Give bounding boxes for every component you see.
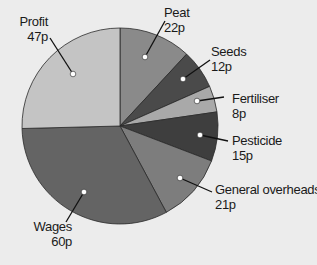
label-fertiliser: Fertiliser 8p [232, 91, 279, 121]
label-wages-value: 60p [30, 234, 72, 249]
label-peat-value: 22p [164, 20, 190, 35]
callout-dot [194, 98, 200, 104]
callout-dot [177, 175, 183, 181]
pie-chart: Peat 22p Seeds 12p Fertiliser 8p Pestici… [0, 0, 317, 265]
label-seeds-name: Seeds [211, 44, 246, 59]
label-general-overheads-name: General overheads [215, 182, 317, 197]
label-wages: Wages 60p [30, 219, 72, 249]
label-general-overheads: General overheads 21p [215, 182, 317, 212]
label-pesticide-name: Pesticide [232, 133, 282, 148]
label-peat: Peat 22p [164, 5, 190, 35]
label-profit: Profit 47p [4, 14, 48, 44]
label-fertiliser-value: 8p [232, 106, 279, 121]
label-profit-name: Profit [4, 14, 48, 29]
label-peat-name: Peat [164, 5, 190, 20]
label-general-overheads-value: 21p [215, 197, 317, 212]
label-fertiliser-name: Fertiliser [232, 91, 279, 106]
callout-dot [142, 54, 148, 60]
label-pesticide-value: 15p [232, 148, 282, 163]
label-wages-name: Wages [30, 219, 72, 234]
label-seeds: Seeds 12p [211, 44, 246, 74]
callout-dot [197, 132, 203, 138]
callout-dot [180, 76, 186, 82]
callout-dot [81, 189, 87, 195]
label-seeds-value: 12p [211, 59, 246, 74]
label-pesticide: Pesticide 15p [232, 133, 282, 163]
callout-dot [70, 71, 76, 77]
label-profit-value: 47p [4, 29, 48, 44]
